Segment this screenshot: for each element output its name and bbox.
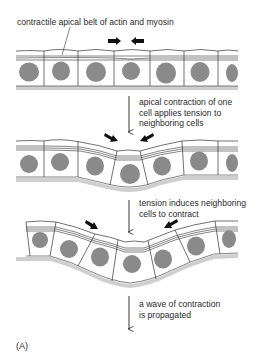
label-line: a wave of contraction	[139, 299, 220, 310]
nuclei	[19, 62, 238, 84]
label-line: tension induces neighboring	[139, 198, 246, 209]
label-apical-belt: contractile apical belt of actin and myo…	[17, 17, 174, 28]
contraction-arrow-right-icon	[104, 133, 118, 142]
contraction-arrow-left-icon	[140, 133, 154, 142]
label-leader-line	[62, 27, 70, 55]
label-line: apical contraction of one	[139, 97, 232, 108]
label-stage-2: apical contraction of one cell applies t…	[139, 97, 232, 129]
panel-label: (A)	[16, 341, 28, 352]
stage-3-sheet	[16, 219, 238, 288]
label-stage-4: a wave of contraction is propagated	[139, 299, 220, 320]
label-line: neighboring cells	[139, 118, 232, 129]
epithelial-folding-diagram	[0, 0, 263, 363]
contraction-arrow-right-icon	[85, 220, 98, 229]
label-line: cells to contract	[139, 209, 246, 220]
stage-2-sheet	[16, 133, 238, 192]
basal-lamina	[16, 86, 238, 90]
contraction-arrow-left-icon	[131, 37, 144, 45]
label-line: is propagated	[139, 310, 220, 321]
contraction-arrow-left-icon	[164, 219, 178, 228]
contraction-arrow-right-icon	[108, 37, 121, 45]
label-line: cell applies tension to	[139, 108, 232, 119]
stage-1-sheet	[16, 27, 238, 90]
label-stage-3: tension induces neighboring cells to con…	[139, 198, 246, 219]
